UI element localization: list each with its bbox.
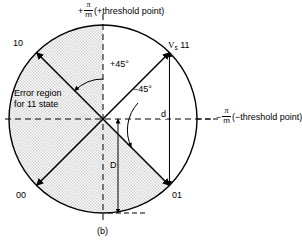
right-threshold-numerator: π [222, 107, 231, 115]
top-threshold-numerator: π [84, 1, 93, 9]
top-threshold-denominator: m [84, 11, 93, 19]
angle-arc-minus-45 [127, 103, 138, 147]
vector-symbol-subscript: s [175, 44, 178, 51]
top-threshold-sign: + [78, 6, 83, 16]
top-threshold-label: +πm(+threshold point) [78, 2, 164, 20]
state-11-digits: 11 [180, 40, 189, 50]
angle-label-minus-45: −45° [133, 84, 152, 94]
error-region-label: Error region for 11 state [14, 88, 62, 109]
constellation-figure: +πm(+threshold point) −πm(−threshold poi… [0, 0, 302, 240]
state-label-00: 00 [16, 190, 26, 200]
right-threshold-sign: − [216, 112, 221, 122]
right-threshold-fraction: πm [222, 107, 231, 125]
dimension-label-D: D [110, 160, 117, 170]
right-threshold-denominator: m [222, 117, 231, 125]
state-label-11: Vs 11 [168, 40, 190, 53]
figure-caption: (b) [97, 226, 108, 236]
error-region-line-1: Error region [14, 88, 62, 99]
error-region-line-2: for 11 state [14, 99, 62, 110]
dimension-label-d: d [160, 109, 167, 119]
top-threshold-note: (+threshold point) [94, 6, 164, 16]
top-threshold-fraction: πm [84, 1, 93, 19]
angle-label-plus-45: +45° [110, 59, 129, 69]
state-label-10: 10 [13, 38, 23, 48]
right-threshold-note: (−threshold point) [232, 112, 302, 122]
state-label-01: 01 [172, 190, 182, 200]
right-threshold-label: −πm(−threshold point) [216, 108, 302, 126]
